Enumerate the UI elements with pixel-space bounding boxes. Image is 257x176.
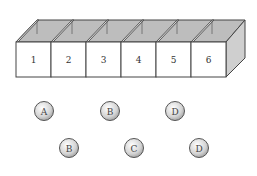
balls-row-2: B C D	[60, 139, 209, 158]
ball-c-label: C	[131, 144, 138, 154]
box-1-label: 1	[31, 55, 37, 65]
ball-b-top-label: B	[107, 107, 114, 117]
box-5-label: 5	[171, 55, 177, 65]
ball-a-label: A	[40, 107, 48, 117]
ball-b-bottom-label: B	[66, 144, 73, 154]
balls-row-1: A B D	[35, 102, 185, 121]
boxes-and-balls-diagram: 1 2 3 4 5 6 A B D B C D	[0, 0, 257, 176]
box-row: 1 2 3 4 5 6	[16, 20, 245, 77]
ball-d-top-label: D	[171, 107, 178, 117]
box-3-label: 3	[101, 55, 107, 65]
box-4-label: 4	[136, 55, 142, 65]
box-6-label: 6	[206, 55, 212, 65]
box-2-label: 2	[66, 55, 72, 65]
ball-d-bottom-label: D	[195, 144, 202, 154]
